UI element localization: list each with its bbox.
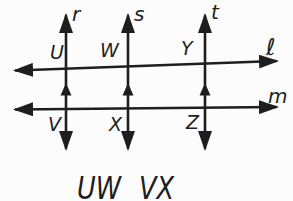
parallel-mark-arrow-s xyxy=(123,83,134,96)
point-label-W: W xyxy=(100,39,120,61)
line-r-label: r xyxy=(72,2,82,26)
line-l-label: ℓ xyxy=(265,34,276,60)
caption-segment-uw: UW xyxy=(77,172,121,201)
parallel-mark-arrow-t xyxy=(200,83,211,96)
point-label-Z: Z xyxy=(185,111,200,133)
point-label-Y: Y xyxy=(181,37,194,59)
line-s-label: s xyxy=(134,2,144,26)
line-t-label: t xyxy=(211,0,220,24)
geometry-figure: r s t ℓ m U W Y V X Z UW VX xyxy=(0,0,293,201)
point-label-U: U xyxy=(50,41,64,63)
point-label-X: X xyxy=(108,113,123,135)
caption-segment-vx: VX xyxy=(139,172,174,201)
line-m-label: m xyxy=(268,84,287,108)
parallel-mark-arrow-r xyxy=(61,83,72,96)
line-m xyxy=(16,107,276,110)
point-label-V: V xyxy=(48,113,63,135)
